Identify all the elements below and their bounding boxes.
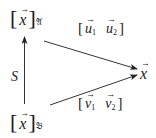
open-bracket: [ — [78, 95, 83, 111]
vector-x: x — [19, 12, 26, 28]
arrow-upper — [44, 41, 137, 69]
edge-label-s: S — [11, 70, 18, 84]
vector-letter: u — [85, 21, 92, 36]
vector-letter: v — [105, 96, 111, 111]
vector-u1: u — [85, 22, 92, 36]
open-bracket: [ — [10, 109, 17, 134]
node-basis-a: [x]𝔄 — [10, 7, 42, 29]
open-bracket: [ — [78, 20, 83, 36]
node-basis-b: [x]𝔅 — [10, 111, 43, 133]
vector-letter: u — [106, 21, 113, 36]
node-target: x — [140, 66, 147, 82]
vector-u2: u — [106, 22, 113, 36]
vector-v1: v — [85, 97, 91, 111]
vector-x: x — [140, 66, 147, 82]
subscript-1: 1 — [92, 28, 96, 37]
edge-label-lower: [v1v2] — [78, 96, 122, 112]
subscript-2: 2 — [111, 103, 115, 112]
vector-v2: v — [105, 97, 111, 111]
open-bracket: [ — [10, 5, 17, 30]
vector-letter: v — [85, 96, 91, 111]
close-bracket: ] — [117, 95, 122, 111]
edge-label-upper: [u1u2] — [78, 21, 124, 37]
close-bracket: ] — [28, 5, 35, 30]
subscript-2: 2 — [113, 28, 117, 37]
basis-subscript: 𝔅 — [36, 121, 43, 131]
close-bracket: ] — [119, 20, 124, 36]
vector-x: x — [19, 116, 26, 132]
close-bracket: ] — [28, 109, 35, 134]
subscript-1: 1 — [91, 103, 95, 112]
basis-subscript: 𝔄 — [36, 17, 42, 27]
